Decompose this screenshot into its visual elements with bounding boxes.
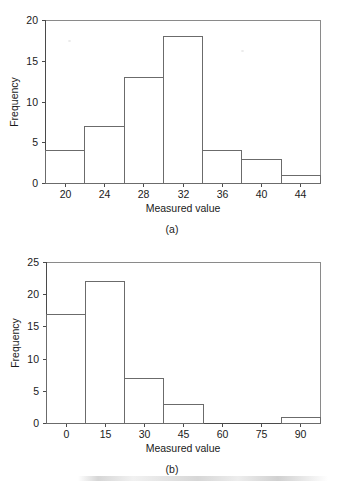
x-tick-label: 44: [295, 188, 307, 200]
scan-artifact-speck: [68, 40, 71, 42]
histogram-bar: [46, 151, 85, 184]
x-tick-label: 0: [64, 428, 70, 440]
y-tick-label: 10: [27, 353, 39, 365]
x-tick-label: 24: [99, 188, 111, 200]
x-axis-title-a: Measured value: [146, 202, 221, 214]
y-tick-label: 25: [27, 256, 39, 268]
y-axis-tick-labels-b: 0510152025: [27, 256, 39, 429]
histogram-panel-b: 0510152025 0153045607590 Measured value …: [0, 240, 339, 483]
x-tick-label: 15: [100, 428, 112, 440]
y-axis-tick-labels-a: 05101520: [26, 14, 38, 189]
histogram-panel-a: 05101520 20242832364044 Measured value F…: [0, 0, 339, 243]
y-tick-label: 0: [33, 417, 39, 429]
histogram-bar: [203, 151, 242, 184]
histogram-bars-a: [46, 37, 321, 184]
histogram-bar: [282, 176, 321, 184]
y-tick-label: 20: [26, 14, 38, 26]
y-axis-title-b: Frequency: [9, 317, 21, 367]
histogram-bar: [85, 127, 125, 184]
y-tick-label: 10: [26, 96, 38, 108]
panel-caption-a: (a): [166, 223, 179, 235]
y-tick-label: 20: [27, 288, 39, 300]
histogram-bar: [125, 379, 164, 424]
histogram-bars-b: [47, 282, 321, 424]
x-tick-label: 75: [256, 428, 268, 440]
x-tick-label: 20: [60, 188, 72, 200]
histogram-bar: [47, 315, 86, 424]
y-tick-label: 5: [32, 136, 38, 148]
x-tick-label: 45: [178, 428, 190, 440]
histogram-bar: [282, 418, 321, 424]
histogram-bar: [164, 405, 204, 424]
x-axis-tick-labels-b: 0153045607590: [64, 428, 307, 440]
y-axis-ticks-b: [43, 263, 47, 424]
x-tick-label: 30: [139, 428, 151, 440]
histogram-bar: [86, 282, 125, 424]
x-tick-label: 60: [217, 428, 229, 440]
scan-artifact-speck: [241, 50, 244, 52]
x-axis-title-b: Measured value: [146, 442, 221, 454]
histogram-bar: [164, 37, 203, 184]
y-axis-title-a: Frequency: [8, 76, 20, 126]
x-tick-label: 36: [217, 188, 229, 200]
x-tick-label: 32: [178, 188, 190, 200]
x-tick-label: 40: [256, 188, 268, 200]
x-tick-label: 28: [138, 188, 150, 200]
y-tick-label: 15: [27, 320, 39, 332]
y-tick-label: 0: [32, 177, 38, 189]
x-axis-tick-labels-a: 20242832364044: [60, 188, 307, 200]
panel-caption-b: (b): [166, 463, 179, 475]
y-tick-label: 15: [26, 55, 38, 67]
histogram-bar: [125, 78, 164, 184]
histogram-a-canvas: 05101520 20242832364044 Measured value F…: [0, 0, 339, 243]
y-axis-ticks-a: [42, 21, 46, 184]
x-tick-label: 90: [295, 428, 307, 440]
histogram-b-canvas: 0510152025 0153045607590 Measured value …: [0, 240, 339, 483]
histogram-bar: [242, 160, 282, 184]
y-tick-label: 5: [33, 385, 39, 397]
scan-artifact-text-line: [78, 476, 328, 481]
